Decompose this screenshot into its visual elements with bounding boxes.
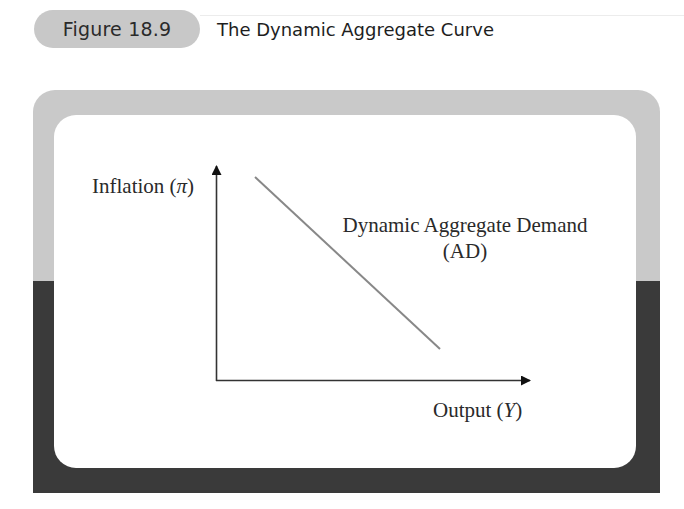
y-axis-label: Inflation (π) (92, 174, 194, 199)
ad-curve-label-line1: Dynamic Aggregate Demand (326, 212, 604, 238)
x-axis-label: Output (Y) (433, 398, 522, 423)
ad-curve-label: Dynamic Aggregate Demand (AD) (326, 212, 604, 264)
ad-curve-label-line2: (AD) (326, 238, 604, 264)
